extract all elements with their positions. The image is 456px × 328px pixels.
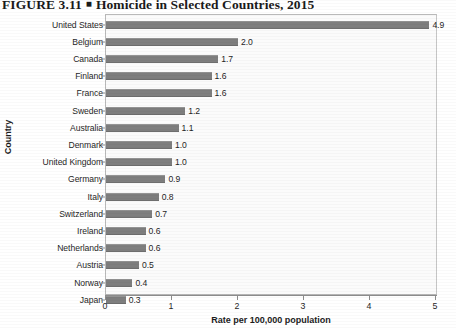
bar-value-label: 0.3	[129, 295, 141, 305]
category-label: Norway	[74, 278, 103, 288]
bar-row: Japan0.3	[0, 291, 456, 308]
bar-value-label: 1.1	[182, 123, 194, 133]
bar-row: Sweden1.2	[0, 102, 456, 119]
bar-row: Norway0.4	[0, 274, 456, 291]
y-axis-tick	[101, 196, 105, 197]
bar	[106, 193, 159, 201]
y-axis-tick	[101, 76, 105, 77]
x-axis-tick-label: 3	[301, 301, 306, 311]
bar	[106, 279, 132, 287]
category-label: Australia	[70, 123, 103, 133]
bar-value-label: 0.9	[168, 174, 180, 184]
x-axis-tick	[369, 295, 370, 300]
bar	[106, 261, 139, 269]
bar-value-label: 1.6	[215, 88, 227, 98]
bar-row: United Kingdom1.0	[0, 154, 456, 171]
category-label: Belgium	[72, 37, 103, 47]
bar-value-label: 1.0	[175, 140, 187, 150]
bar-value-label: 1.7	[221, 54, 233, 64]
bar	[106, 107, 185, 115]
y-axis-tick	[101, 213, 105, 214]
y-axis-tick	[101, 265, 105, 266]
category-label: Sweden	[72, 106, 103, 116]
x-axis-title: Rate per 100,000 population	[105, 315, 437, 325]
figure-title-text: Homicide in Selected Countries, 2015	[96, 0, 314, 11]
y-axis-tick	[101, 110, 105, 111]
y-axis-tick	[101, 24, 105, 25]
bar-row: Belgium2.0	[0, 33, 456, 50]
x-axis-tick	[435, 295, 436, 300]
x-axis-tick	[303, 295, 304, 300]
bar-value-label: 0.6	[149, 226, 161, 236]
category-label: United States	[52, 20, 103, 30]
bar	[106, 210, 152, 218]
bar	[106, 38, 238, 46]
bar	[106, 227, 146, 235]
bar-row: France1.6	[0, 85, 456, 102]
figure-title: FIGURE 3.11■Homicide in Selected Countri…	[2, 0, 314, 11]
bar-chart: Country United States4.9Belgium2.0Canada…	[0, 12, 456, 328]
bar	[106, 141, 172, 149]
bar-value-label: 1.6	[215, 71, 227, 81]
x-axis-tick	[237, 295, 238, 300]
bar-value-label: 4.9	[432, 20, 444, 30]
y-axis-tick	[101, 282, 105, 283]
y-axis-tick	[101, 127, 105, 128]
x-axis-tick-label: 5	[433, 301, 438, 311]
y-axis-tick	[101, 41, 105, 42]
bar-value-label: 0.8	[162, 192, 174, 202]
bar-row: Netherlands0.6	[0, 240, 456, 257]
bar-value-label: 0.5	[142, 260, 154, 270]
category-label: Japan	[80, 295, 103, 305]
bar	[106, 296, 126, 304]
bar	[106, 244, 146, 252]
bar-row: United States4.9	[0, 16, 456, 33]
category-label: Finland	[75, 71, 103, 81]
bar	[106, 55, 218, 63]
x-axis-tick	[171, 295, 172, 300]
x-axis-line	[105, 295, 437, 296]
category-label: France	[77, 88, 103, 98]
category-label: Germany	[68, 174, 103, 184]
y-axis-tick	[101, 230, 105, 231]
bar-row: Ireland0.6	[0, 222, 456, 239]
bar-value-label: 0.6	[149, 243, 161, 253]
bar-row: Denmark1.0	[0, 136, 456, 153]
figure-separator-icon: ■	[86, 0, 92, 9]
category-label: Canada	[73, 54, 103, 64]
y-axis-tick	[101, 248, 105, 249]
bar-row: Switzerland0.7	[0, 205, 456, 222]
bar-row: Finland1.6	[0, 68, 456, 85]
bar	[106, 124, 179, 132]
bar-value-label: 0.4	[135, 278, 147, 288]
x-axis-tick-label: 1	[169, 301, 174, 311]
bar	[106, 175, 165, 183]
y-axis-tick	[101, 58, 105, 59]
category-label: Austria	[77, 260, 103, 270]
y-axis-tick	[101, 179, 105, 180]
bar-value-label: 1.0	[175, 157, 187, 167]
x-axis-tick-label: 0	[103, 301, 108, 311]
bar-value-label: 2.0	[241, 37, 253, 47]
y-axis-tick	[101, 93, 105, 94]
bar	[106, 72, 212, 80]
bar-row: Australia1.1	[0, 119, 456, 136]
bar-row: Italy0.8	[0, 188, 456, 205]
category-label: United Kingdom	[43, 157, 103, 167]
category-label: Ireland	[77, 226, 103, 236]
figure-number: FIGURE 3.11	[2, 0, 82, 11]
bar	[106, 21, 429, 29]
category-label: Denmark	[68, 140, 103, 150]
bar-row: Austria0.5	[0, 257, 456, 274]
bar	[106, 89, 212, 97]
category-label: Netherlands	[57, 243, 103, 253]
bar-value-label: 0.7	[155, 209, 167, 219]
y-axis-tick	[101, 162, 105, 163]
bar	[106, 158, 172, 166]
bar-value-label: 1.2	[188, 106, 200, 116]
category-label: Switzerland	[59, 209, 103, 219]
y-axis-tick	[101, 144, 105, 145]
x-axis-tick	[105, 295, 106, 300]
bar-row: Germany0.9	[0, 171, 456, 188]
x-axis-tick-label: 4	[367, 301, 372, 311]
